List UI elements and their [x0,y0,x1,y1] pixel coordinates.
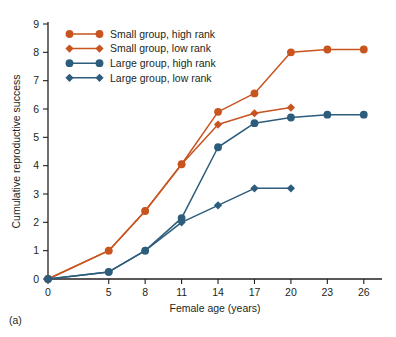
data-point-circle [214,108,222,116]
legend: Small group, high rankSmall group, low r… [65,28,216,84]
series-3 [44,111,368,283]
y-tick-label: 0 [33,273,39,285]
legend-marker-circle [66,59,74,67]
y-tick-label: 9 [33,18,39,30]
x-tick-label: 26 [358,286,370,298]
series-line-2 [48,108,291,279]
data-point-circle [251,90,259,98]
x-tick-label: 0 [45,286,51,298]
legend-marker-circle [96,59,104,67]
series-2 [44,103,295,283]
y-tick-label: 6 [33,103,39,115]
data-point-circle [287,48,295,56]
legend-item-label: Small group, high rank [110,28,216,40]
series-line-3 [48,115,364,279]
y-tick-label: 5 [33,131,39,143]
data-point-circle [323,46,331,54]
data-point-circle [214,143,222,151]
legend-item-label: Large group, high rank [110,57,216,69]
legend-marker-circle [66,30,74,38]
data-point-circle [360,46,368,54]
series-4 [44,184,295,283]
series-line-1 [48,50,364,280]
x-tick-label: 5 [106,286,112,298]
legend-marker-diamond [65,45,73,53]
panel-caption: (a) [9,314,22,326]
legend-item-label: Large group, low rank [110,72,212,84]
y-tick-label: 4 [33,159,39,171]
data-point-diamond [250,109,258,117]
legend-marker-circle [96,30,104,38]
legend-item-label: Small group, low rank [110,42,212,54]
x-tick-label: 17 [249,286,261,298]
y-tick-label: 2 [33,216,39,228]
y-tick-label: 7 [33,74,39,86]
y-tick-label: 8 [33,46,39,58]
legend-item[interactable]: Large group, low rank [65,72,212,84]
legend-item[interactable]: Large group, high rank [66,57,217,69]
figure-panel: 0123456789058111417202326Female age (yea… [0,0,396,337]
x-tick-label: 23 [322,286,334,298]
data-point-circle [323,111,331,119]
cumulative-reproductive-success-chart: 0123456789058111417202326Female age (yea… [0,0,396,337]
legend-marker-diamond [65,74,73,82]
legend-marker-diamond [95,74,103,82]
legend-marker-diamond [95,45,103,53]
data-point-circle [251,119,259,127]
x-tick-label: 8 [142,286,148,298]
data-point-circle [360,111,368,119]
x-axis-ticks: 058111417202326 [45,279,370,298]
data-point-circle [287,114,295,122]
data-point-diamond [44,275,52,283]
y-tick-label: 1 [33,244,39,256]
data-point-diamond [287,103,295,111]
legend-item[interactable]: Small group, low rank [65,42,211,54]
data-point-diamond [250,184,258,192]
x-tick-label: 11 [176,286,187,298]
data-point-diamond [105,268,113,276]
data-point-diamond [214,201,222,209]
data-point-diamond [287,184,295,192]
y-tick-label: 3 [33,188,39,200]
x-axis-title: Female age (years) [169,302,260,314]
x-tick-label: 20 [285,286,297,298]
legend-item[interactable]: Small group, high rank [66,28,216,40]
y-axis-ticks: 0123456789 [33,18,48,285]
y-axis-title: Cumulative reproductive success [10,74,22,228]
series-line-4 [48,188,291,279]
x-tick-label: 14 [212,286,224,298]
